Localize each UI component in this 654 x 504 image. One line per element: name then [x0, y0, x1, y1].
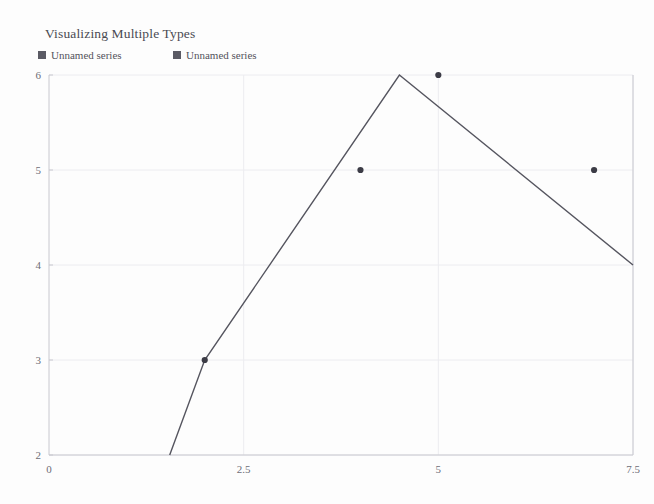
y-axis-tick-label: 3	[15, 354, 41, 366]
y-axis-tick-labels: 23456	[11, 75, 41, 455]
x-axis-tick-label: 7.5	[626, 463, 640, 475]
x-axis-tick-label: 5	[436, 463, 442, 475]
legend-item-label: Unnamed series	[186, 49, 257, 61]
legend-item[interactable]: Unnamed series	[173, 47, 257, 63]
scatter-point	[435, 72, 441, 78]
chart-container: Visualizing Multiple Types Unnamed serie…	[0, 0, 654, 504]
legend-item-label: Unnamed series	[51, 49, 122, 61]
y-axis-tick-label: 4	[15, 259, 41, 271]
x-axis-tick-label: 2.5	[237, 463, 251, 475]
legend-swatch-icon	[173, 51, 181, 59]
x-axis-tick-labels: 02.557.5	[49, 463, 633, 481]
chart-title: Visualizing Multiple Types	[45, 26, 195, 42]
scatter-point	[357, 167, 363, 173]
x-axis-tick-label: 0	[46, 463, 52, 475]
legend-swatch-icon	[38, 51, 46, 59]
legend-item[interactable]: Unnamed series	[38, 47, 122, 63]
scatter-point	[591, 167, 597, 173]
y-axis-tick-label: 6	[15, 69, 41, 81]
plot-svg	[49, 75, 633, 455]
y-axis-tick-label: 2	[15, 449, 41, 461]
y-axis-tick-label: 5	[15, 164, 41, 176]
scatter-point	[202, 357, 208, 363]
plot-area	[49, 75, 633, 455]
